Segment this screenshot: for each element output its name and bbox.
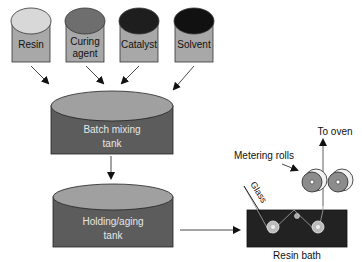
batch-tank-label-2: tank bbox=[103, 138, 123, 149]
input-arrows bbox=[31, 66, 194, 89]
to-oven-label: To oven bbox=[317, 126, 352, 137]
curing-label-1: Curing bbox=[70, 36, 99, 47]
batch-tank-label-1: Batch mixing bbox=[83, 124, 140, 135]
holding-tank-label-1: Holding/aging bbox=[82, 216, 143, 227]
batch-mixing-tank: Batch mixing tank bbox=[51, 91, 173, 154]
resin-container: Resin bbox=[11, 8, 51, 62]
resin-label: Resin bbox=[18, 39, 44, 50]
catalyst-label: Catalyst bbox=[121, 39, 157, 50]
metering-rolls bbox=[302, 169, 353, 192]
holding-tank-label-2: tank bbox=[104, 230, 124, 241]
curing-agent-container: Curing agent bbox=[65, 8, 105, 62]
solvent-container: Solvent bbox=[174, 8, 214, 62]
catalyst-container: Catalyst bbox=[119, 8, 159, 62]
process-diagram: Resin Curing agent Catalyst Solvent Batc… bbox=[0, 0, 362, 262]
metering-rolls-pointer bbox=[282, 164, 297, 170]
resin-bath-label: Resin bath bbox=[273, 250, 321, 261]
holding-aging-tank: Holding/aging tank bbox=[53, 184, 173, 247]
solvent-label: Solvent bbox=[177, 39, 211, 50]
glass-label: Glass bbox=[248, 180, 269, 205]
curing-label-2: agent bbox=[72, 48, 97, 59]
metering-rolls-label: Metering rolls bbox=[234, 150, 294, 161]
